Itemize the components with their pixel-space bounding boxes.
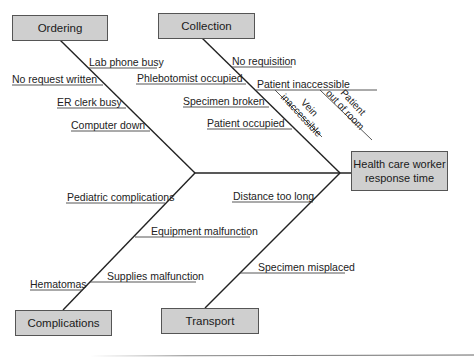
effect-label-line2: response time [365, 171, 434, 185]
cause-phlebotomist-occupied: Phlebotomist occupied [137, 72, 243, 84]
cause-supplies-malfunction: Supplies malfunction [107, 270, 204, 282]
bottom-rule [90, 355, 474, 356]
complications-category-box: Complications [15, 310, 112, 336]
cause-no-requisition: No requisition [232, 55, 296, 67]
cause-distance-too-long: Distance too long [233, 190, 314, 202]
cause-er-clerk-busy: ER clerk busy [57, 96, 122, 108]
fishbone-diagram: Ordering Collection Health care worker r… [0, 0, 474, 358]
complications-label: Complications [27, 316, 99, 330]
effect-label-line1: Health care worker [353, 157, 445, 171]
cause-specimen-broken: Specimen broken [183, 95, 265, 107]
collection-label: Collection [181, 19, 232, 33]
cause-hematomas: Hematomas [30, 278, 87, 290]
cause-equipment-malfunction: Equipment malfunction [151, 225, 258, 237]
cause-lab-phone-busy: Lab phone busy [89, 56, 164, 68]
transport-category-box: Transport [161, 308, 259, 334]
ordering-category-box: Ordering [12, 15, 108, 41]
ordering-label: Ordering [38, 21, 83, 35]
collection-category-box: Collection [158, 13, 255, 39]
cause-computer-down: Computer down [71, 119, 145, 131]
cause-pediatric-complications: Pediatric complications [67, 191, 174, 203]
cause-specimen-misplaced: Specimen misplaced [258, 261, 355, 273]
transport-label: Transport [186, 314, 235, 328]
cause-patient-occupied: Patient occupied [207, 117, 285, 129]
cause-no-request-written: No request written [12, 73, 97, 85]
effect-box: Health care worker response time [351, 151, 448, 191]
